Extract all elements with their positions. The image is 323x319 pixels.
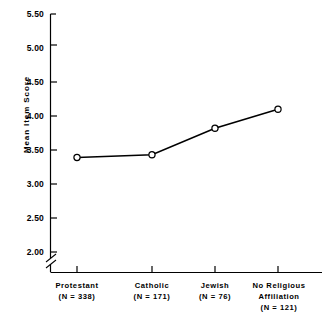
plot-area bbox=[0, 0, 323, 319]
x-label-no-religious-affiliation: No Religious Affiliation (N = 121) bbox=[236, 280, 322, 313]
x-label-name-2: Affiliation bbox=[236, 291, 322, 302]
data-point-protestant bbox=[74, 154, 80, 160]
y-tick-marks bbox=[51, 45, 58, 252]
x-label-n: (N = 121) bbox=[236, 302, 322, 313]
data-point-markers bbox=[74, 106, 281, 160]
axis-break-symbol bbox=[46, 252, 56, 272]
data-line-series-1 bbox=[77, 109, 278, 157]
data-point-no-religious-affiliation bbox=[275, 106, 281, 112]
chart-figure: Mean Item Score 5.50 5.00 4.50 4.00 3.50… bbox=[0, 0, 323, 319]
x-label-name: No Religious bbox=[236, 280, 322, 291]
data-point-jewish bbox=[212, 125, 218, 131]
x-tick-marks bbox=[77, 266, 278, 273]
data-point-catholic bbox=[149, 152, 155, 158]
